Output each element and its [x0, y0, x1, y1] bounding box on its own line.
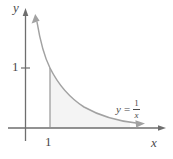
curve-equation-label: y = 1 x: [116, 99, 140, 120]
curve-right-arrowhead: [135, 120, 145, 127]
curve-label-y: y: [116, 104, 121, 115]
graph-svg: [0, 0, 173, 159]
y-axis-tick-label-1: 1: [12, 60, 19, 73]
x-axis-label: x: [151, 136, 157, 149]
x-axis-tick-label-1: 1: [45, 135, 52, 148]
y-axis-label: y: [13, 1, 19, 14]
curve-label-denominator: x: [134, 111, 140, 120]
curve-label-fraction: 1 x: [133, 99, 140, 120]
curve-label-equals: =: [124, 104, 130, 115]
curve-label-numerator: 1: [133, 99, 140, 108]
x-axis-arrowhead: [158, 125, 166, 131]
figure-canvas: y x 1 1 y = 1 x: [0, 0, 173, 159]
curve-top-arrowhead: [32, 14, 40, 23]
y-axis-arrowhead: [23, 8, 29, 16]
